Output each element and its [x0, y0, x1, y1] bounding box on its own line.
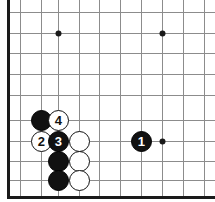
stone-move-number-label: 4 — [55, 113, 62, 126]
stone-black-move-1[interactable]: 1 — [131, 131, 152, 152]
stone-move-number-label: 2 — [38, 134, 45, 147]
stone-move-number-label: 1 — [138, 134, 145, 147]
stone-white-lower-bottom[interactable] — [69, 170, 90, 191]
stone-move-number-label: 3 — [55, 134, 62, 147]
stone-white-lower-middle[interactable] — [69, 151, 90, 172]
go-board-diagram: 4231 — [0, 0, 215, 202]
go-board-grid — [0, 0, 215, 202]
star-point-upper-right — [160, 31, 166, 37]
stone-black-move-3[interactable]: 3 — [48, 131, 69, 152]
stone-black-lower-bottom[interactable] — [48, 170, 69, 191]
stone-white-move-4[interactable]: 4 — [48, 110, 69, 131]
stone-black-lower-middle[interactable] — [48, 151, 69, 172]
star-point-lower-right — [160, 139, 166, 145]
star-point-upper-left — [56, 31, 62, 37]
stone-white-right-of-3[interactable] — [69, 131, 90, 152]
